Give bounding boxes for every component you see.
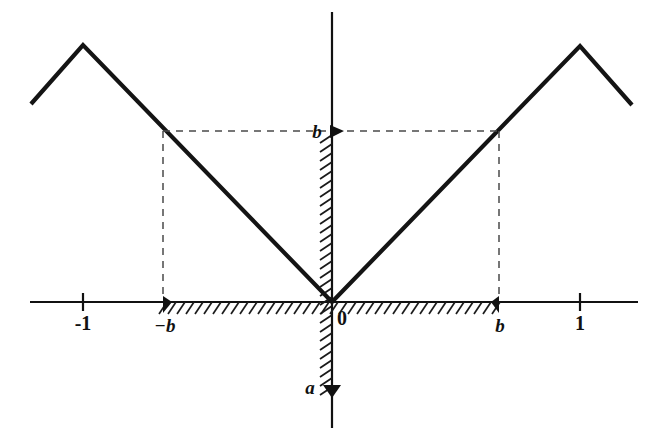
math-diagram: -1 −b 0 b 1 b a — [0, 0, 662, 438]
figure-container: -1 −b 0 b 1 b a — [0, 0, 662, 438]
label-x-neg-b: −b — [154, 315, 175, 336]
label-origin: 0 — [337, 307, 347, 329]
marker-y-b-arrowhead — [330, 125, 344, 138]
label-x-pos-one: 1 — [575, 312, 585, 334]
label-x-pos-b: b — [495, 315, 505, 336]
axes-group — [30, 12, 638, 428]
label-x-neg-one: -1 — [75, 312, 92, 334]
hatching-y-interval — [320, 135, 332, 395]
label-y-a: a — [305, 377, 315, 398]
label-y-b: b — [312, 121, 322, 142]
